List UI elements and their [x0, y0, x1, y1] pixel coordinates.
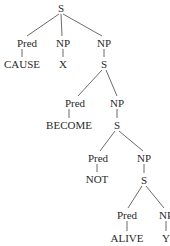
node-np-3: NP [137, 152, 151, 164]
node-np-x: NP [56, 37, 70, 49]
tree-edge [61, 14, 62, 36]
node-s-3: S [141, 174, 147, 186]
node-pred-alive: Pred [117, 209, 137, 221]
leaf-y: Y [162, 232, 170, 244]
node-s-root: S [58, 2, 64, 14]
node-pred-not: Pred [88, 152, 108, 164]
node-pred-cause: Pred [17, 37, 37, 49]
leaf-alive: ALIVE [111, 232, 144, 244]
leaf-cause: CAUSE [4, 58, 40, 70]
node-pred-become: Pred [65, 97, 85, 109]
tree-edge [100, 131, 115, 151]
node-s-2: S [114, 119, 120, 131]
node-s-1: S [101, 58, 107, 70]
node-np-1: NP [97, 37, 111, 49]
leaf-become: BECOME [46, 119, 92, 131]
tree-edge [27, 14, 59, 36]
tree-edge [119, 131, 143, 151]
node-np-y: NP [159, 209, 170, 221]
syntax-tree-diagram: S Pred CAUSE NP X NP S Pred BECOME NP S … [0, 0, 170, 246]
tree-edge [146, 186, 164, 208]
leaf-not: NOT [86, 173, 109, 185]
leaf-x: X [59, 58, 67, 70]
tree-edge [63, 14, 102, 36]
tree-edge [78, 70, 102, 96]
node-np-2: NP [110, 97, 124, 109]
tree-edge [128, 186, 142, 208]
tree-edge [106, 70, 117, 96]
